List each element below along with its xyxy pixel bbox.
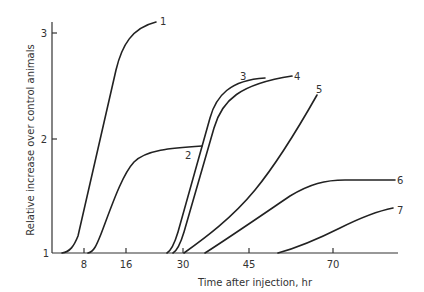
curve-label-1: 1 [160, 16, 166, 27]
curve-7 [278, 208, 393, 253]
curve-label-5: 5 [316, 84, 322, 95]
y-axis-label: Relative increase over control animals [25, 44, 36, 235]
y-tick-label-2: 2 [41, 134, 47, 145]
curve-3 [167, 78, 265, 253]
chart-canvas: 3 2 1 8 16 30 45 70 Time after injection… [0, 0, 424, 292]
x-tick-label-30: 30 [177, 259, 190, 270]
curve-5 [184, 95, 317, 253]
y-tick-label-1: 1 [43, 248, 49, 259]
curve-label-4: 4 [294, 71, 300, 82]
curve-label-7: 7 [397, 205, 403, 216]
x-axis-label: Time after injection, hr [197, 277, 313, 288]
x-tick-label-16: 16 [120, 259, 133, 270]
x-tick-label-8: 8 [81, 259, 87, 270]
curve-label-3: 3 [240, 71, 246, 82]
x-tick-label-45: 45 [243, 259, 256, 270]
curve-label-6: 6 [397, 175, 403, 186]
x-tick-label-70: 70 [327, 259, 340, 270]
curve-label-2: 2 [185, 150, 191, 161]
y-tick-label-3: 3 [41, 28, 47, 39]
curve-2 [88, 146, 202, 253]
curve-1 [62, 22, 156, 253]
